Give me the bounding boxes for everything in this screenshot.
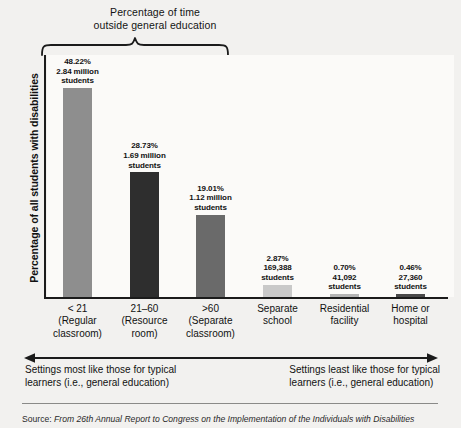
value-label-separate-classroom: 19.01% 1.12 million students — [172, 184, 250, 213]
x-axis-labels: < 21 (Regular classroom) 21–60 (Resource… — [0, 303, 461, 353]
value-count-2: students — [39, 76, 117, 86]
value-count-2: students — [372, 282, 450, 292]
bars-layer — [0, 0, 461, 297]
value-label-resource-room: 28.73% 1.69 million students — [106, 141, 184, 170]
value-count-2: students — [106, 161, 184, 171]
bar-regular-classroom[interactable] — [63, 88, 92, 297]
bar-residential-facility[interactable] — [330, 294, 359, 297]
source-lead: Source: — [22, 414, 52, 424]
source-divider — [22, 403, 438, 404]
value-pct: 48.22% — [39, 57, 117, 67]
x-label-home-or-hospital: Home or hospital — [372, 303, 450, 328]
bar-separate-school[interactable] — [263, 285, 292, 297]
double-arrow-icon — [24, 352, 438, 364]
value-label-home-or-hospital: 0.46% 27,360 students — [372, 263, 450, 292]
x-axis-line — [44, 297, 448, 299]
value-pct: 0.46% — [372, 263, 450, 273]
source-text: From 26th Annual Report to Congress on t… — [54, 414, 414, 424]
value-pct: 19.01% — [172, 184, 250, 194]
value-count-1: 27,360 — [372, 273, 450, 283]
source-note: Source: From 26th Annual Report to Congr… — [22, 414, 452, 425]
value-pct: 28.73% — [106, 141, 184, 151]
bar-home-or-hospital[interactable] — [396, 294, 425, 297]
value-count-1: 1.69 million — [106, 151, 184, 161]
bar-resource-room[interactable] — [130, 172, 159, 297]
bar-separate-classroom[interactable] — [196, 215, 225, 297]
caption-right: Settings least like those for typical le… — [289, 364, 440, 389]
value-pct: 2.87% — [239, 254, 317, 264]
caption-left: Settings most like those for typical lea… — [25, 364, 176, 389]
value-label-regular-classroom: 48.22% 2.84 million students — [39, 57, 117, 86]
value-count-1: 2.84 million — [39, 67, 117, 77]
value-count-2: students — [172, 203, 250, 213]
value-count-1: 1.12 million — [172, 193, 250, 203]
chart-figure: Percentage of time outside general educa… — [0, 0, 461, 428]
